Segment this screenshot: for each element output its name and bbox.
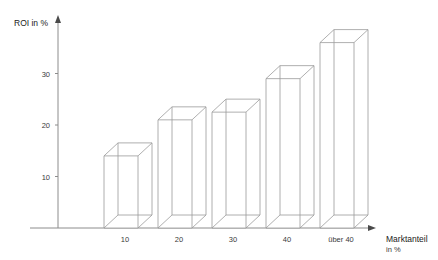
roi-marktanteil-3d-bar-chart: 102030 10203040über 40 ROI in % Marktant…: [0, 0, 438, 260]
chart-canvas: 102030 10203040über 40 ROI in % Marktant…: [0, 0, 438, 260]
y-axis: [55, 15, 61, 228]
y-axis-tick-labels: 102030: [42, 70, 50, 182]
bar-3d: [320, 30, 368, 228]
y-tick-label: 30: [42, 70, 50, 79]
bar-front-fill: [104, 156, 138, 228]
x-tick-label: 10: [121, 235, 129, 244]
x-tick-label: 40: [283, 235, 291, 244]
bar-edge-bottom-right: [192, 215, 206, 228]
x-tick-label: 30: [229, 235, 237, 244]
bar-edge-bottom-right: [354, 215, 368, 228]
x-tick-label: 20: [175, 235, 183, 244]
bar-front-fill: [320, 43, 354, 228]
bar-edge-bottom-right: [246, 215, 260, 228]
bar-3d: [158, 107, 206, 228]
x-axis-title-line1: Marktanteil: [386, 234, 428, 244]
bar-3d: [266, 66, 314, 228]
bar-front-fill: [266, 79, 300, 228]
bar-front-fill: [158, 120, 192, 228]
y-tick-label: 10: [42, 173, 50, 182]
bar-edge-bottom-right: [138, 215, 152, 228]
y-tick-label: 20: [42, 121, 50, 130]
bar-edge-bottom-right: [300, 215, 314, 228]
bar-3d: [212, 99, 260, 228]
bars-group: [104, 30, 368, 228]
bar-3d: [104, 143, 152, 228]
x-axis-title-line2: in %: [386, 245, 401, 254]
bar-front-fill: [212, 112, 246, 228]
y-axis-arrowhead: [55, 15, 61, 23]
x-tick-label: über 40: [328, 235, 353, 244]
y-axis-title: ROI in %: [14, 18, 48, 28]
x-axis-tick-labels: 10203040über 40: [121, 235, 354, 244]
x-axis-arrowhead: [368, 225, 376, 231]
